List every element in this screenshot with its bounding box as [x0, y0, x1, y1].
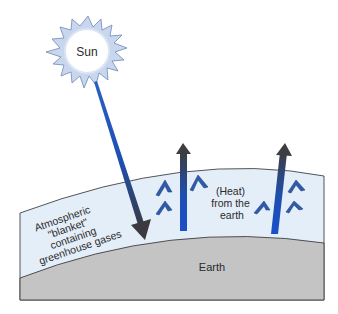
earth-label: Earth	[199, 261, 225, 273]
sun-icon: Sun	[46, 16, 127, 88]
greenhouse-diagram: Sun Atmospheric "blanket" containing gre…	[0, 0, 338, 314]
sun-label: Sun	[76, 45, 97, 59]
